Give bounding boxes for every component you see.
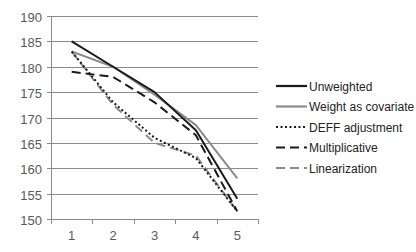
x-axis-tick-labels: 12345 [68,228,241,243]
y-tick-label: 180 [20,61,42,76]
x-tick-label: 1 [68,228,75,243]
y-tick-label: 155 [20,188,42,203]
x-tick-label: 4 [192,228,199,243]
gridlines [47,17,258,220]
x-tick-label: 5 [234,228,241,243]
y-tick-label: 190 [20,10,42,25]
y-tick-label: 175 [20,86,42,101]
legend-label: Weight as covariate [309,100,414,114]
line-chart: 150155160165170175180185190 12345 Unweig… [0,0,416,252]
x-tick-label: 3 [151,228,158,243]
legend-label: DEFF adjustment [309,121,403,135]
y-tick-label: 165 [20,137,42,152]
y-tick-label: 160 [20,162,42,177]
legend: UnweightedWeight as covariateDEFF adjust… [276,80,414,176]
y-tick-label: 170 [20,112,42,127]
series-lines [72,41,238,211]
y-tick-label: 150 [20,213,42,228]
legend-label: Linearization [309,162,377,176]
series-line-linearization [72,52,238,212]
y-axis-tick-labels: 150155160165170175180185190 [20,10,42,228]
legend-label: Multiplicative [309,141,378,155]
series-line-unweighted [72,41,238,198]
legend-label: Unweighted [309,80,372,94]
x-tick-label: 2 [109,228,116,243]
series-line-deff-adjustment [72,52,238,212]
y-tick-label: 185 [20,35,42,50]
